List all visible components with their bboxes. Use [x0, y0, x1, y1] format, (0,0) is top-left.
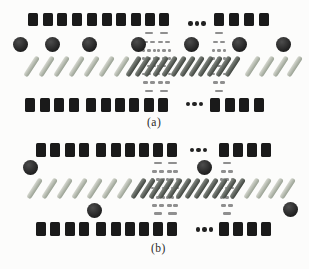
unit-cell-square	[153, 222, 163, 237]
column-ellipsis-segment	[167, 204, 172, 207]
unit-cell-square	[50, 143, 60, 157]
unit-cell-square	[36, 222, 46, 237]
column-ellipsis-segment	[228, 170, 233, 173]
node-circle	[283, 202, 298, 217]
unit-cell-square	[96, 143, 106, 157]
diagonal-slash	[101, 177, 118, 199]
panel-b: (b)	[0, 0, 309, 269]
diagonal-slash	[41, 177, 58, 199]
unit-cell-square	[96, 222, 106, 237]
unit-cell-square	[50, 222, 60, 237]
unit-cell-square	[65, 222, 75, 237]
unit-cell-square	[167, 222, 177, 237]
unit-cell-square	[65, 143, 75, 157]
unit-cell-square	[219, 222, 229, 237]
diagonal-slash	[56, 177, 73, 199]
column-ellipsis-segment	[228, 204, 233, 207]
panel-b-label: (b)	[151, 242, 166, 254]
column-ellipsis-segment	[173, 170, 178, 173]
column-ellipsis-segment	[223, 212, 231, 215]
unit-cell-square	[111, 222, 121, 237]
unit-cell-square	[139, 222, 149, 237]
unit-cell-square	[219, 143, 229, 157]
unit-cell-square	[111, 143, 121, 157]
row-continuation-ellipsis-dot	[203, 148, 207, 152]
diagonal-slash	[86, 177, 103, 199]
node-circle	[197, 160, 212, 175]
unit-cell-square	[79, 222, 89, 237]
diagonal-slash	[26, 177, 43, 199]
node-circle	[23, 160, 38, 175]
row-continuation-ellipsis-dot	[190, 148, 194, 152]
unit-cell-square	[125, 222, 135, 237]
unit-cell-square	[36, 143, 46, 157]
row-continuation-ellipsis-dot	[202, 227, 206, 231]
column-ellipsis-segment	[152, 170, 157, 173]
unit-cell-square	[247, 143, 257, 157]
column-ellipsis-segment	[159, 170, 164, 173]
unit-cell-square	[261, 143, 271, 157]
unit-cell-square	[247, 222, 257, 237]
column-ellipsis-segment	[168, 212, 176, 215]
unit-cell-square	[233, 222, 243, 237]
unit-cell-square	[167, 143, 177, 157]
row-continuation-ellipsis-dot	[196, 148, 200, 152]
column-ellipsis-segment	[152, 204, 157, 207]
column-ellipsis-segment	[223, 162, 231, 165]
unit-cell-square	[125, 143, 135, 157]
unit-cell-square	[153, 143, 163, 157]
row-continuation-ellipsis-dot	[209, 227, 213, 231]
column-ellipsis-segment	[167, 170, 172, 173]
column-ellipsis-segment	[221, 170, 226, 173]
array-schematic-figure: (a) (b)	[0, 0, 309, 269]
column-ellipsis-segment	[154, 212, 162, 215]
row-continuation-ellipsis-dot	[196, 227, 200, 231]
column-ellipsis-segment	[221, 204, 226, 207]
unit-cell-square	[233, 143, 243, 157]
node-circle	[87, 203, 102, 218]
column-ellipsis-segment	[159, 204, 164, 207]
unit-cell-square	[139, 143, 149, 157]
column-ellipsis-segment	[154, 162, 162, 165]
diagonal-slash	[71, 177, 88, 199]
unit-cell-square	[79, 143, 89, 157]
column-ellipsis-segment	[173, 204, 178, 207]
column-ellipsis-segment	[168, 162, 176, 165]
unit-cell-square	[261, 222, 271, 237]
